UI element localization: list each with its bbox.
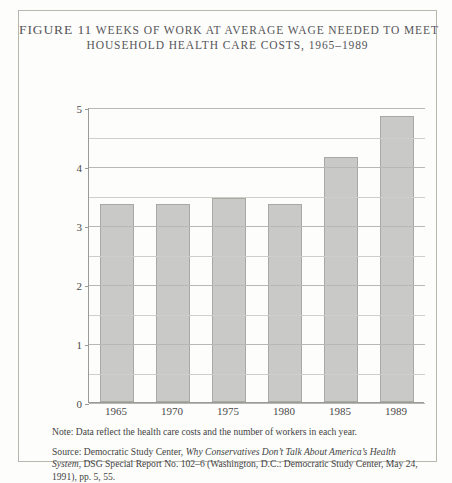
y-axis-tickmark xyxy=(85,109,89,110)
x-axis-tick-label: 1965 xyxy=(88,405,144,417)
bar-slot xyxy=(145,107,201,402)
x-axis-tick-label: 1989 xyxy=(368,405,424,417)
x-axis-tick-labels: 196519701975198019851989 xyxy=(88,405,424,417)
source-text: Source: Democratic Study Center, Why Con… xyxy=(52,446,424,483)
source-prefix: Source: Democratic Study Center, xyxy=(52,446,186,457)
bar-1970 xyxy=(156,204,190,402)
y-axis-tick-label: 5 xyxy=(77,103,83,115)
figure-title-line-2: HOUSEHOLD HEALTH CARE COSTS, 1965–1989 xyxy=(19,38,436,53)
bar-1975 xyxy=(212,198,246,402)
bar-1989 xyxy=(380,116,414,402)
figure-number: FIGURE 11 xyxy=(19,22,92,37)
gridline-major: 2 xyxy=(89,285,425,286)
y-axis-tickmark xyxy=(85,345,89,346)
y-axis-tick-label: 2 xyxy=(77,280,83,292)
footnotes: Note: Data reflect the health care costs… xyxy=(52,425,424,483)
figure-title-text-1: WEEKS OF WORK AT AVERAGE WAGE NEEDED TO … xyxy=(96,24,439,36)
x-axis-tick-label: 1985 xyxy=(312,405,368,417)
y-axis-tick-label: 3 xyxy=(77,221,83,233)
bar-slot xyxy=(89,107,145,402)
gridline-major: 4 xyxy=(89,167,425,168)
x-axis-tick-label: 1970 xyxy=(144,405,200,417)
gridline-minor xyxy=(89,374,425,375)
bar-1980 xyxy=(268,204,302,402)
figure-title: FIGURE 11 WEEKS OF WORK AT AVERAGE WAGE … xyxy=(19,22,436,53)
gridline-minor xyxy=(89,256,425,257)
plot-area: 012345 xyxy=(88,108,424,403)
y-axis-tick-label: 0 xyxy=(77,398,83,410)
figure-title-line-1: FIGURE 11 WEEKS OF WORK AT AVERAGE WAGE … xyxy=(19,22,436,38)
bar-slot xyxy=(369,107,425,402)
y-axis-tickmark xyxy=(85,286,89,287)
gridline-major: 3 xyxy=(89,226,425,227)
bar-slot xyxy=(313,107,369,402)
bar-1985 xyxy=(324,157,358,402)
gridline-major: 1 xyxy=(89,344,425,345)
y-axis-tick-label: 4 xyxy=(77,162,83,174)
y-axis-tickmark xyxy=(85,168,89,169)
source-suffix: , DSG Special Report No. 102–6 (Washingt… xyxy=(52,458,418,481)
gridline-minor xyxy=(89,138,425,139)
bar-series xyxy=(89,107,425,402)
gridline-minor xyxy=(89,315,425,316)
note-text: Note: Data reflect the health care costs… xyxy=(52,425,424,438)
gridline-major: 5 xyxy=(89,108,425,109)
y-axis-tickmark xyxy=(85,227,89,228)
bar-slot xyxy=(201,107,257,402)
bar-slot xyxy=(257,107,313,402)
figure-frame: FIGURE 11 WEEKS OF WORK AT AVERAGE WAGE … xyxy=(18,10,437,462)
bar-1965 xyxy=(100,204,134,402)
y-axis-tick-label: 1 xyxy=(77,339,83,351)
x-axis-tick-label: 1980 xyxy=(256,405,312,417)
gridline-minor xyxy=(89,197,425,198)
bar-chart: 012345 196519701975198019851989 xyxy=(52,108,424,404)
x-axis-tick-label: 1975 xyxy=(200,405,256,417)
gridline-major: 0 xyxy=(89,403,425,404)
